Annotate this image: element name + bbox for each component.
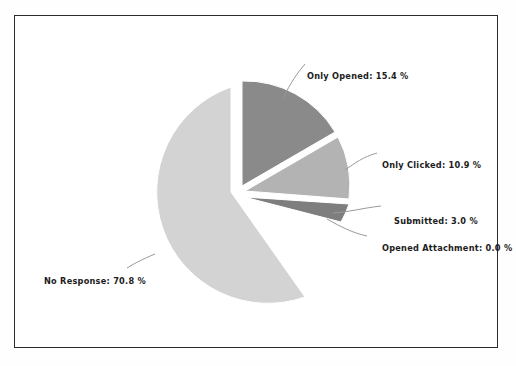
remnant-mark-2: · xyxy=(108,0,111,2)
pie-chart-plot-area: Only Opened: 15.4 % Only Clicked: 10.9 %… xyxy=(15,16,499,349)
screenshot-canvas: · · · · · xyxy=(0,0,516,366)
pie-chart-svg xyxy=(15,16,499,349)
pie-label-only-opened: Only Opened: 15.4 % xyxy=(307,71,409,81)
top-text-remnants: · · · · · xyxy=(0,0,516,7)
remnant-mark-4: · xyxy=(275,0,278,2)
leader-line-only-clicked xyxy=(345,153,377,170)
pie-label-only-clicked: Only Clicked: 10.9 % xyxy=(382,160,481,170)
leader-line-opened-attachment xyxy=(327,219,367,236)
pie-label-submitted: Submitted: 3.0 % xyxy=(394,216,478,226)
remnant-mark-5: · xyxy=(300,0,303,2)
pie-slice-submitted[interactable] xyxy=(244,197,349,222)
chart-frame: Only Opened: 15.4 % Only Clicked: 10.9 %… xyxy=(14,15,498,348)
leader-line-no-response xyxy=(127,254,155,268)
pie-label-no-response: No Response: 70.8 % xyxy=(44,276,146,286)
pie-label-opened-attachment: Opened Attachment: 0.0 % xyxy=(382,243,512,253)
remnant-mark-3: · xyxy=(212,0,215,2)
remnant-mark-1: · xyxy=(45,0,48,2)
